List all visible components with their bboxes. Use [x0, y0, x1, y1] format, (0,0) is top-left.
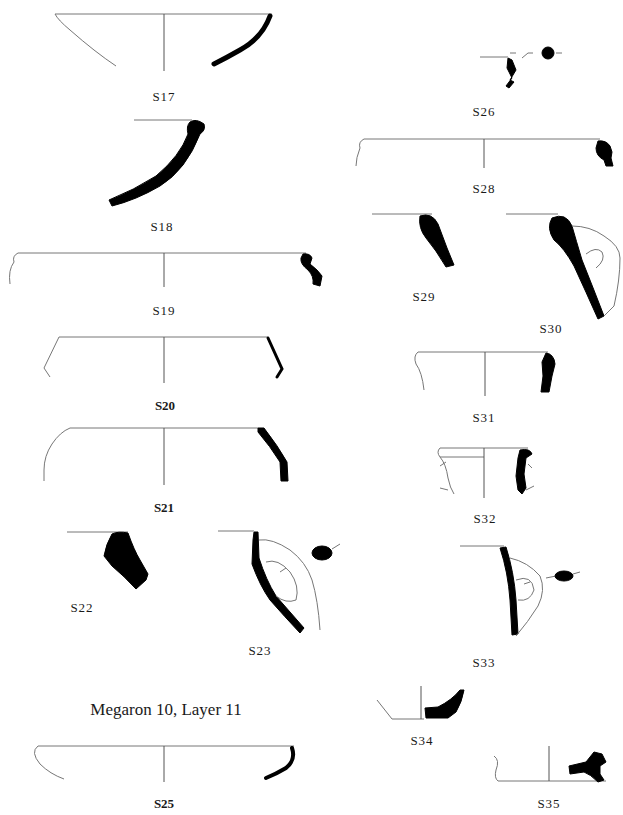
profile-drawing-s32: [438, 448, 534, 498]
vessel-label-s18: S18: [150, 219, 173, 235]
profile-drawing-s26: [480, 47, 562, 88]
vessel-label-s21: S21: [154, 500, 174, 516]
vessel-label-s30: S30: [539, 321, 562, 337]
vessel-label-s33: S33: [472, 655, 495, 671]
profile-drawing-s23: [218, 531, 340, 633]
pottery-profile-plate: S17 S18 S19 S20 S21 S22 S23 Megaron 10, …: [0, 0, 623, 815]
vessel-label-s19: S19: [152, 303, 175, 319]
vessel-label-s29: S29: [412, 289, 435, 305]
vessel-label-s35: S35: [537, 796, 560, 812]
profile-drawing-s30: [506, 214, 620, 319]
vessel-label-s17: S17: [152, 89, 175, 105]
profile-drawing-s20: [44, 337, 282, 383]
profile-drawing-s17: [55, 14, 272, 71]
vessel-label-s32: S32: [473, 511, 496, 527]
vessel-label-s34: S34: [410, 733, 433, 749]
profile-drawing-s31: [415, 352, 555, 396]
section-caption: Megaron 10, Layer 11: [90, 700, 241, 720]
vessel-label-s26: S26: [472, 104, 495, 120]
vessel-label-s20: S20: [155, 398, 175, 414]
profile-drawing-s34: [377, 686, 464, 719]
profile-drawing-s22: [67, 532, 148, 589]
vessel-label-s25: S25: [154, 796, 174, 812]
profile-drawing-s25: [34, 746, 294, 782]
profile-drawing-s28: [356, 139, 613, 168]
profile-drawing-s19: [10, 253, 323, 287]
profile-drawing-s33: [460, 546, 580, 636]
profile-drawing-s21: [44, 428, 288, 485]
profile-drawing-s18: [109, 120, 205, 206]
vessel-label-s28: S28: [472, 181, 495, 197]
vessel-label-s31: S31: [472, 410, 495, 426]
profile-drawing-s29: [372, 214, 454, 267]
profile-drawing-s35: [494, 746, 606, 782]
vessel-label-s22: S22: [70, 600, 93, 616]
vessel-label-s23: S23: [248, 643, 271, 659]
